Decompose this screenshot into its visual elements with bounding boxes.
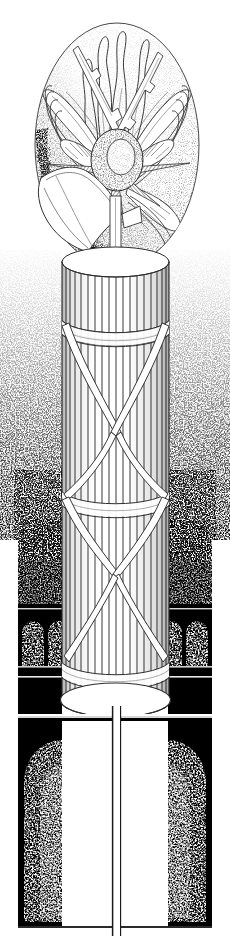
illustration-canvas <box>0 0 230 936</box>
fluted-column <box>60 247 171 718</box>
right-margin <box>212 540 230 936</box>
ink-illustration <box>0 0 230 936</box>
center-pilaster <box>112 706 121 936</box>
left-margin <box>0 540 18 936</box>
